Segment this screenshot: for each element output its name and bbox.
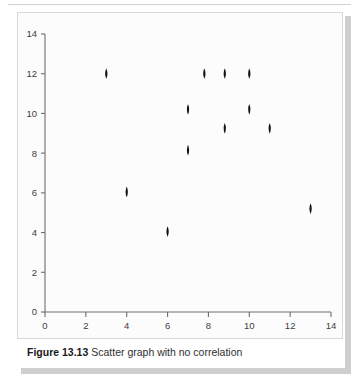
y-tick-label: 2 (32, 267, 37, 278)
figure-container: 0246810121402468101214 Figure 13.13 Scat… (17, 12, 345, 368)
plot-axes (45, 34, 331, 312)
x-tick-label: 6 (165, 320, 170, 331)
figure-caption-text: Scatter graph with no correlation (88, 346, 242, 358)
x-tick-label: 0 (42, 320, 47, 331)
data-point (269, 123, 271, 134)
x-tick-label: 2 (83, 320, 88, 331)
y-tick-label: 0 (32, 306, 37, 317)
y-tick-label: 6 (32, 187, 37, 198)
scatter-plot: 0246810121402468101214 (18, 13, 344, 340)
y-tick-label: 8 (32, 148, 37, 159)
data-point (309, 203, 311, 214)
data-point (203, 68, 205, 79)
data-point (105, 68, 107, 79)
x-tick-label: 4 (124, 320, 129, 331)
data-point (248, 104, 250, 115)
page-top-rule (8, 4, 351, 5)
figure-caption-number: Figure 13.13 (27, 346, 88, 358)
x-tick-label: 10 (244, 320, 255, 331)
data-point (187, 145, 189, 156)
data-point (224, 68, 226, 79)
y-tick-label: 14 (26, 28, 37, 39)
data-point (166, 226, 168, 237)
data-point (187, 104, 189, 115)
figure-caption: Figure 13.13 Scatter graph with no corre… (27, 345, 343, 359)
x-tick-label: 14 (326, 320, 337, 331)
x-tick-label: 12 (285, 320, 296, 331)
chart-panel: 0246810121402468101214 (17, 12, 343, 339)
data-point (224, 123, 226, 134)
data-point (126, 186, 128, 197)
y-tick-label: 12 (26, 68, 37, 79)
y-tick-label: 10 (26, 108, 37, 119)
data-point (248, 68, 250, 79)
y-tick-label: 4 (32, 227, 37, 238)
x-tick-label: 8 (206, 320, 211, 331)
